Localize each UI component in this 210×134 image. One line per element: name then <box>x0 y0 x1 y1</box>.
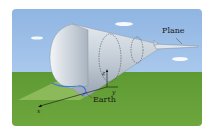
x-axis-label: x <box>37 108 40 114</box>
cloud <box>115 22 133 26</box>
z-axis-label: z <box>102 70 105 76</box>
cloud <box>31 36 43 39</box>
cloud <box>172 57 188 61</box>
plane-icon <box>154 44 198 49</box>
plane-leader-line <box>176 38 182 44</box>
cone-diagram <box>0 0 210 134</box>
cone-opening <box>50 24 88 88</box>
earth-label: Earth <box>93 96 116 104</box>
y-axis-label: y <box>112 89 115 95</box>
plane-label: Plane <box>162 27 185 35</box>
